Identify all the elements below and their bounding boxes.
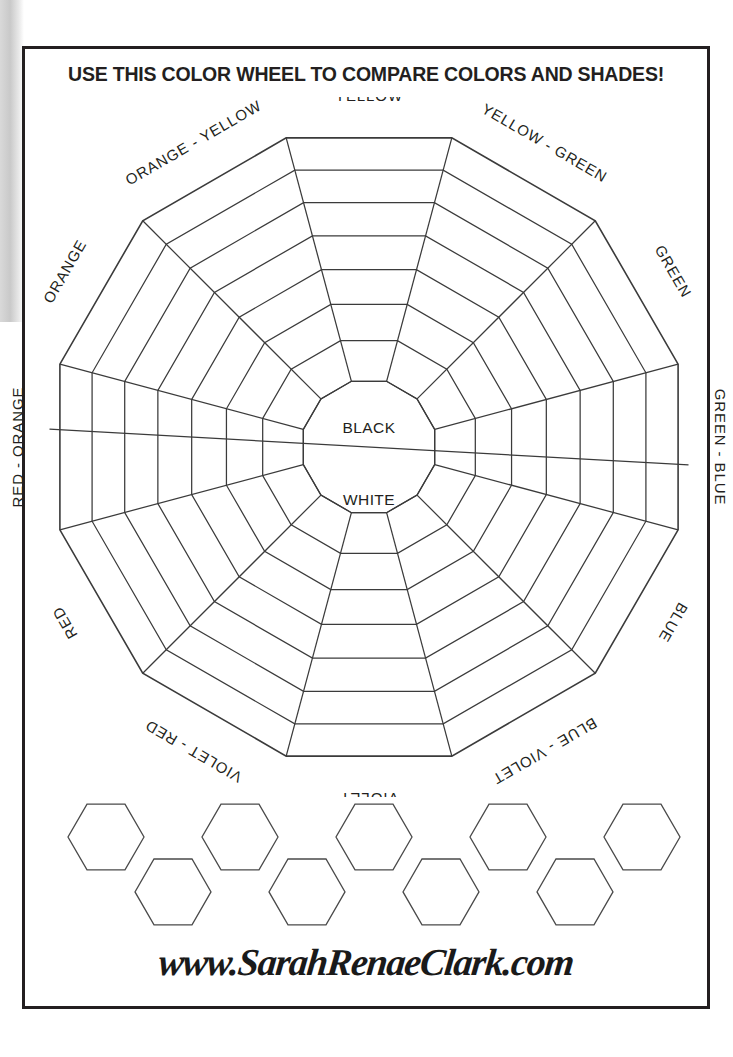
swatch-hexagon-top-5[interactable]: [604, 804, 680, 870]
wheel-label-yellow-green: YELLOW - GREEN: [479, 100, 610, 186]
wheel-label-green: GREEN: [652, 242, 696, 301]
wheel-spoke-3: [435, 364, 678, 429]
wheel-spoke-5: [417, 495, 595, 673]
wheel-spoke-4: [435, 465, 678, 530]
wheel-spoke-0: [286, 138, 351, 381]
wheel-label-yellow: YELLOW: [335, 97, 403, 104]
wheel-spoke-6: [387, 513, 452, 756]
wheel-spoke-8: [143, 495, 321, 673]
swatch-hexagon-bottom-4[interactable]: [537, 859, 613, 925]
color-wheel: BLACKWHITE YELLOWYELLOW - GREENGREENGREE…: [11, 97, 727, 797]
wheel-spoke-2: [417, 221, 595, 399]
wheel-spoke-10: [60, 364, 303, 429]
wheel-label-blue-violet: BLUE - VIOLET: [490, 715, 600, 789]
swatch-hexagon-top-3[interactable]: [336, 804, 412, 870]
wheel-label-red: RED: [49, 604, 81, 642]
core-label-black: BLACK: [343, 419, 396, 436]
wheel-spoke-1: [387, 138, 452, 381]
practice-swatches: [25, 791, 707, 941]
wheel-spoke-9: [60, 465, 303, 530]
site-credit: www.SarahRenaeClark.com: [23, 940, 710, 984]
wheel-label-orange: ORANGE: [40, 236, 90, 305]
wheel-spoke-7: [286, 513, 351, 756]
wheel-label-violet-red: VIOLET - RED: [142, 717, 245, 786]
swatch-hexagon-top-1[interactable]: [68, 804, 144, 870]
swatch-hexagon-top-2[interactable]: [202, 804, 278, 870]
page-title: USE THIS COLOR WHEEL TO COMPARE COLORS A…: [25, 63, 707, 86]
wheel-label-green-blue: GREEN - BLUE: [712, 389, 727, 506]
color-wheel-diagram: BLACKWHITE YELLOWYELLOW - GREENGREENGREE…: [11, 97, 727, 797]
hexagon-swatch-grid: [46, 791, 686, 941]
swatch-hexagon-bottom-3[interactable]: [403, 859, 479, 925]
wheel-core-group: BLACKWHITE: [50, 381, 689, 512]
swatch-hexagon-bottom-1[interactable]: [135, 859, 211, 925]
swatch-hexagon-top-4[interactable]: [470, 804, 546, 870]
core-label-white: WHITE: [343, 491, 395, 508]
swatch-hexagon-bottom-2[interactable]: [269, 859, 345, 925]
wheel-spoke-11: [143, 221, 321, 399]
worksheet-page: USE THIS COLOR WHEEL TO COMPARE COLORS A…: [22, 46, 710, 1009]
wheel-label-orange-yellow: ORANGE - YELLOW: [122, 97, 264, 188]
wheel-label-red-orange: RED - ORANGE: [11, 387, 26, 508]
wheel-label-blue: BLUE: [655, 600, 691, 646]
